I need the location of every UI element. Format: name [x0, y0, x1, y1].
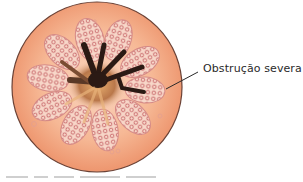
airway-cross-section-figure: Obstrução severa	[0, 0, 303, 182]
cropped-caption-remnant	[6, 176, 256, 182]
annotation-label-severe-obstruction: Obstrução severa	[203, 62, 302, 75]
airway-illustration	[0, 0, 303, 182]
